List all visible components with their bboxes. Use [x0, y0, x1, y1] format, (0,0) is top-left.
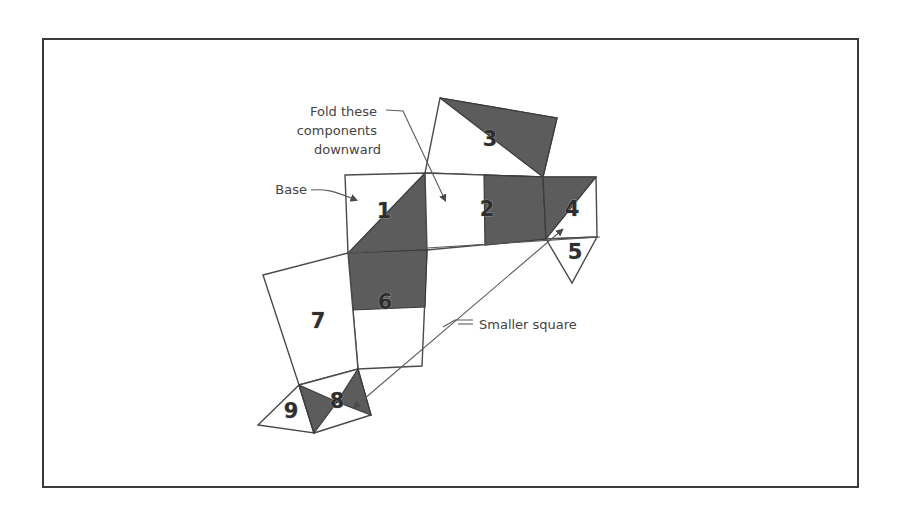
piece-label-3: 3	[483, 127, 498, 151]
piece-label-4: 4	[565, 197, 580, 221]
piece-label-6: 6	[378, 290, 393, 314]
smaller-square-label: Smaller square	[479, 317, 577, 332]
fold-label-line2: components	[297, 123, 378, 138]
piece-label-1: 1	[377, 199, 392, 223]
net-diagram: 1 2 3 4 5 6 7 8 9 Fold these components …	[0, 0, 909, 520]
piece-label-9: 9	[284, 399, 299, 423]
piece-label-7: 7	[311, 309, 326, 333]
piece-label-5: 5	[568, 240, 583, 264]
fold-label-line3: downward	[314, 142, 381, 157]
fold-label-line1: Fold these	[310, 104, 377, 119]
base-label: Base	[275, 182, 307, 197]
piece-label-8: 8	[330, 389, 345, 413]
piece-label-2: 2	[480, 197, 495, 221]
